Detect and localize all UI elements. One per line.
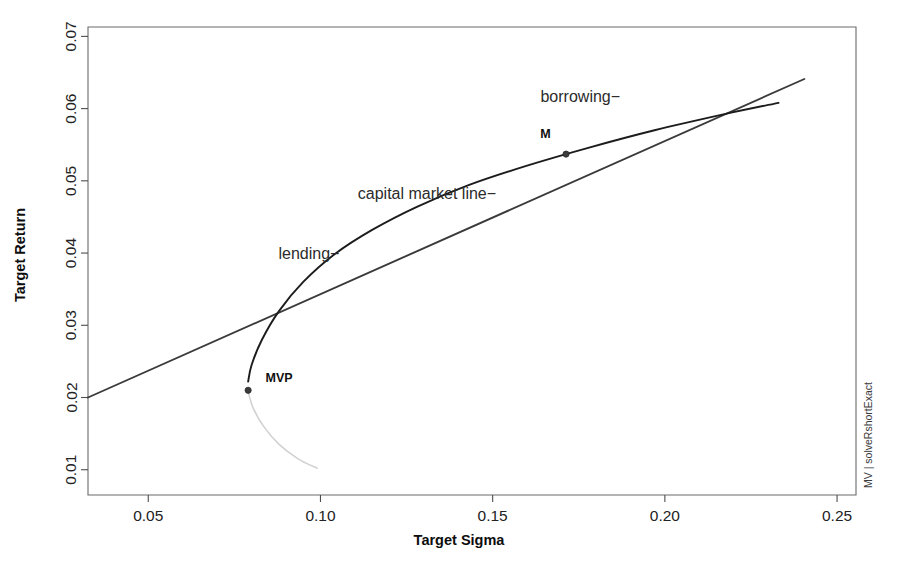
data-series-group — [88, 79, 804, 468]
annotation-lending: lending− — [278, 245, 339, 262]
chart-figure: 0.050.100.150.200.25 0.010.020.030.040.0… — [0, 0, 902, 577]
y-tick-label: 0.05 — [63, 166, 80, 196]
side-caption: MV | solveRshortExact — [862, 382, 874, 488]
annotation-borrowing: borrowing− — [540, 88, 620, 105]
point-label-m: M — [540, 127, 550, 141]
y-axis-title: Target Return — [12, 208, 28, 302]
point-marker-mvp — [245, 387, 251, 393]
x-tick-label: 0.15 — [478, 507, 508, 524]
x-axis-title: Target Sigma — [414, 532, 506, 548]
series-capital-market-line — [88, 79, 804, 398]
y-tick-label: 0.01 — [63, 455, 80, 485]
plot-frame — [88, 27, 856, 495]
y-tick-label: 0.03 — [63, 310, 80, 340]
annotation-capital-market-line: capital market line− — [358, 185, 496, 202]
y-tick-label: 0.06 — [63, 94, 80, 124]
y-tick-label: 0.02 — [63, 382, 80, 412]
plot-box-border — [88, 27, 856, 495]
point-label-mvp: MVP — [266, 371, 293, 385]
y-tick-label: 0.04 — [63, 238, 80, 269]
x-tick-label: 0.20 — [650, 507, 681, 524]
series-inefficient-frontier-branch — [248, 392, 317, 469]
chart-canvas: 0.050.100.150.200.25 0.010.020.030.040.0… — [0, 0, 902, 577]
x-axis-ticks: 0.050.100.150.200.25 — [133, 495, 852, 524]
series-efficient-frontier — [248, 103, 778, 382]
annotations-group: borrowing−capital market line−lending− — [278, 88, 620, 262]
x-tick-label: 0.25 — [822, 507, 852, 524]
x-tick-label: 0.10 — [305, 507, 336, 524]
point-marker-m — [563, 151, 569, 157]
y-axis-ticks: 0.010.020.030.040.050.060.07 — [63, 21, 89, 485]
x-tick-label: 0.05 — [133, 507, 163, 524]
y-tick-label: 0.07 — [63, 21, 80, 51]
